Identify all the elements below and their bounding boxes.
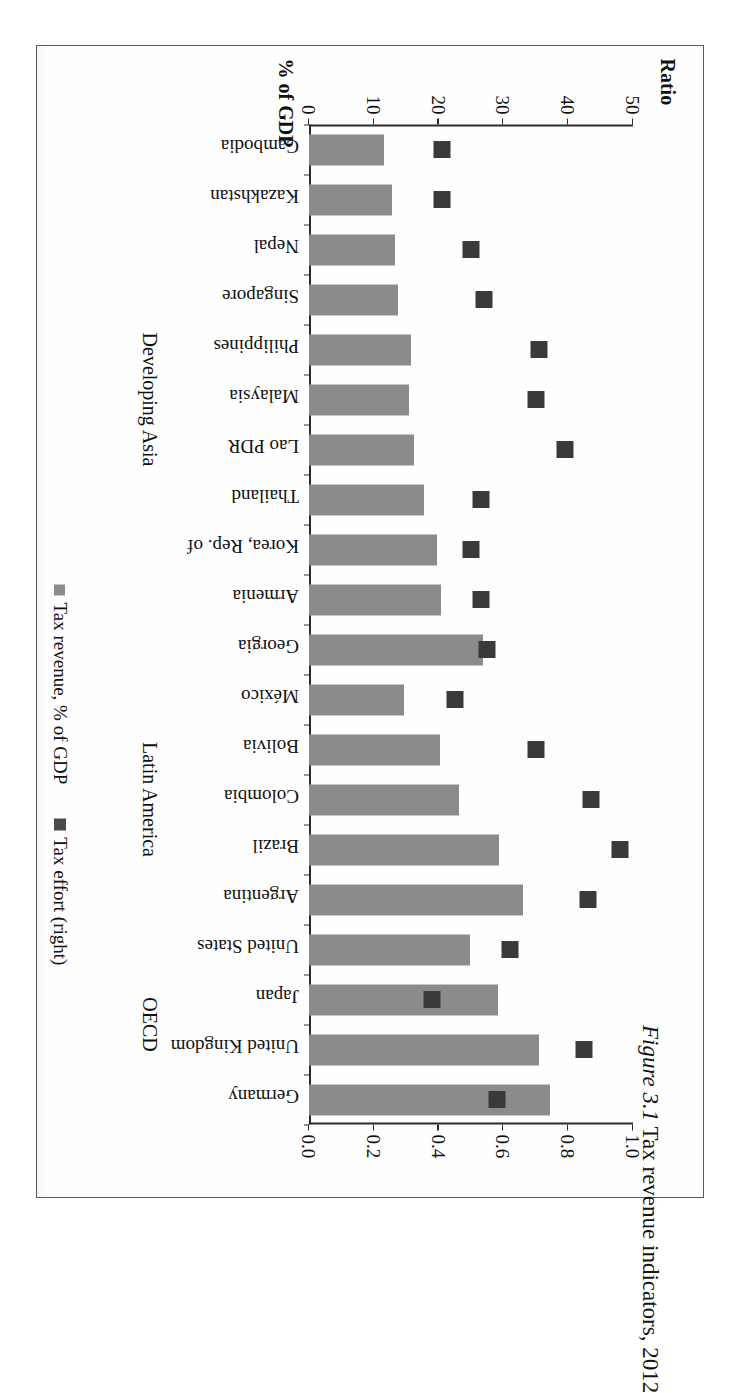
bar — [309, 784, 459, 815]
ratio-tick-label: 0.0 — [299, 1134, 318, 1182]
marker — [612, 841, 629, 858]
category-label: Bolivia — [243, 734, 299, 756]
group-label: Developing Asia — [138, 309, 161, 489]
legend-bar-swatch-icon — [55, 584, 66, 595]
axis-line-gdp — [309, 124, 633, 126]
gdp-tick — [632, 118, 633, 124]
category-label: Thailand — [231, 484, 299, 506]
ratio-tick-label: 0.8 — [558, 1134, 577, 1182]
bar — [309, 834, 500, 865]
category-label: Georgia — [238, 634, 299, 656]
marker — [582, 791, 599, 808]
category-label: United States — [197, 934, 299, 956]
marker — [472, 491, 489, 508]
marker — [479, 641, 496, 658]
chart-canvas: % of GDP Ratio 01020304050 0.00.20.40.60… — [37, 46, 705, 1199]
ratio-tick-label: 0.4 — [429, 1134, 448, 1182]
legend-label: Tax effort (right) — [49, 837, 71, 965]
marker — [472, 591, 489, 608]
category-tick — [304, 1074, 309, 1075]
category-tick — [304, 824, 309, 825]
ratio-tick-label: 0.2 — [364, 1134, 383, 1182]
bar — [309, 684, 404, 715]
bar — [309, 734, 440, 765]
axis-title-ratio: Ratio — [656, 58, 679, 105]
marker — [475, 291, 492, 308]
category-tick — [304, 124, 309, 125]
category-label: Philippines — [213, 334, 299, 356]
category-tick — [304, 224, 309, 225]
marker — [424, 991, 441, 1008]
gdp-tick-label: 50 — [623, 78, 642, 114]
figure-caption: Figure 3.1 Tax revenue indicators, 2012 — [636, 1025, 664, 1325]
gdp-tick-label: 10 — [364, 78, 383, 114]
marker — [531, 341, 548, 358]
category-label: Korea, Rep. of — [187, 534, 299, 556]
ratio-tick-label: 0.6 — [493, 1134, 512, 1182]
category-tick — [304, 474, 309, 475]
bar — [309, 584, 441, 615]
category-label: Japan — [256, 984, 299, 1006]
bar — [309, 984, 498, 1015]
marker — [433, 191, 450, 208]
category-tick — [304, 374, 309, 375]
category-tick — [304, 1024, 309, 1025]
category-tick — [304, 724, 309, 725]
axis-line-ratio — [309, 1122, 633, 1124]
bar — [309, 1034, 539, 1065]
gdp-tick — [308, 118, 309, 124]
category-label: Singapore — [222, 284, 299, 306]
marker — [463, 241, 480, 258]
category-tick — [304, 324, 309, 325]
category-tick — [304, 574, 309, 575]
gdp-tick-label: 30 — [493, 78, 512, 114]
gdp-tick-label: 40 — [558, 78, 577, 114]
category-label: Kazakhstan — [210, 184, 299, 206]
category-tick — [304, 1124, 309, 1125]
legend-item: Tax effort (right) — [49, 818, 71, 965]
ratio-tick — [632, 1124, 633, 1130]
bar — [309, 534, 437, 565]
gdp-tick-label: 20 — [429, 78, 448, 114]
marker — [527, 391, 544, 408]
ratio-tick — [502, 1124, 503, 1130]
plot-area: 01020304050 0.00.20.40.60.81.0 — [309, 124, 633, 1124]
chart-root: % of GDP Ratio 01020304050 0.00.20.40.60… — [37, 46, 705, 1199]
category-label: Malaysia — [229, 384, 299, 406]
axis-line-category — [309, 124, 311, 1124]
chart-legend: Tax revenue, % of GDPTax effort (right) — [49, 584, 71, 965]
category-tick — [304, 174, 309, 175]
group-label: OECD — [138, 934, 161, 1114]
bar — [309, 234, 395, 265]
caption-number: Figure 3.1 — [638, 1025, 663, 1121]
marker — [463, 541, 480, 558]
marker — [433, 141, 450, 158]
bar — [309, 934, 470, 965]
figure-frame: % of GDP Ratio 01020304050 0.00.20.40.60… — [36, 45, 704, 1198]
ratio-tick — [567, 1124, 568, 1130]
gdp-tick — [437, 118, 438, 124]
legend-marker-swatch-icon — [54, 818, 66, 830]
marker — [576, 1041, 593, 1058]
legend-item: Tax revenue, % of GDP — [49, 584, 71, 784]
gdp-tick — [373, 118, 374, 124]
bar — [309, 434, 414, 465]
category-label: Lao PDR — [228, 434, 299, 456]
category-tick — [304, 524, 309, 525]
caption-text: Tax revenue indicators, 2012 — [638, 1127, 663, 1393]
bar — [309, 284, 398, 315]
marker — [556, 441, 573, 458]
bar — [309, 384, 409, 415]
category-tick — [304, 274, 309, 275]
category-tick — [304, 924, 309, 925]
category-tick — [304, 774, 309, 775]
category-tick — [304, 674, 309, 675]
category-label: México — [241, 684, 299, 706]
category-label: Colombia — [224, 784, 299, 806]
marker — [488, 1091, 505, 1108]
marker — [501, 941, 518, 958]
category-tick — [304, 424, 309, 425]
category-label: Cambodia — [221, 134, 299, 156]
group-label: Latin America — [138, 709, 161, 889]
